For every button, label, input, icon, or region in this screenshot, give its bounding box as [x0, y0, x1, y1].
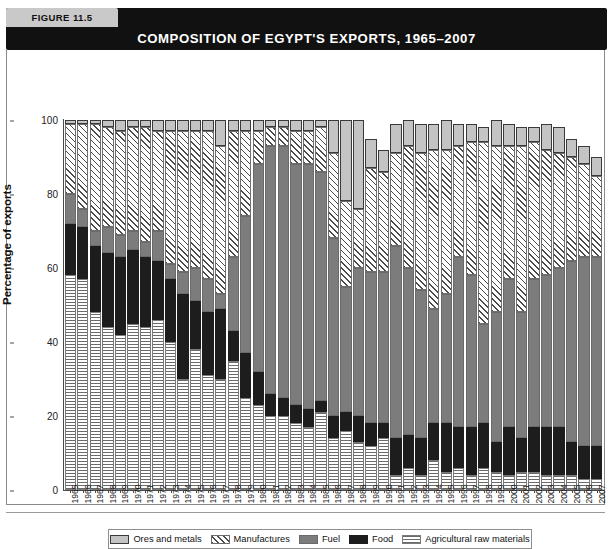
bar-segment-food	[340, 412, 351, 431]
y-axis-tick-label: 100	[14, 115, 64, 126]
legend-item-food[interactable]: Food	[349, 534, 393, 544]
legend-item-fuel[interactable]: Fuel	[299, 534, 340, 544]
bar-segment-fuel	[177, 272, 188, 294]
bar-segment-manufactures	[190, 131, 201, 268]
bar-column[interactable]	[340, 120, 351, 490]
bar-segment-ores	[315, 120, 326, 127]
bar-segment-manufactures	[328, 153, 339, 238]
bar-column[interactable]	[503, 120, 514, 490]
y-axis-tick-label: 80	[14, 189, 64, 200]
bar-column[interactable]	[478, 120, 489, 490]
chart-panel: Percentage of exports 020406080100 19651…	[6, 50, 605, 505]
bar-column[interactable]	[441, 120, 452, 490]
bar-segment-food	[240, 353, 251, 397]
bar-column[interactable]	[190, 120, 201, 490]
bar-column[interactable]	[228, 120, 239, 490]
bar-segment-manufactures	[253, 131, 264, 164]
bar-segment-manufactures	[428, 150, 439, 309]
bar-column[interactable]	[140, 120, 151, 490]
bar-segment-fuel	[152, 231, 163, 261]
bar-segment-food	[578, 446, 589, 479]
bar-segment-fuel	[140, 242, 151, 257]
bar-column[interactable]	[566, 120, 577, 490]
bar-segment-food	[403, 435, 414, 468]
bar-column[interactable]	[177, 120, 188, 490]
bar-column[interactable]	[202, 120, 213, 490]
bar-column[interactable]	[415, 120, 426, 490]
bar-segment-manufactures	[403, 146, 414, 268]
x-axis-tick: 2007	[590, 493, 603, 535]
bar-segment-ores	[390, 124, 401, 154]
bar-column[interactable]	[553, 120, 564, 490]
bar-segment-fuel	[253, 164, 264, 371]
bar-column[interactable]	[390, 120, 401, 490]
bar-segment-ores	[152, 120, 163, 131]
bar-segment-agricultural	[90, 312, 101, 490]
bar-column[interactable]	[65, 120, 76, 490]
bar-column[interactable]	[77, 120, 88, 490]
bar-segment-agricultural	[190, 349, 201, 490]
bar-column[interactable]	[152, 120, 163, 490]
legend-label-manufactures: Manufactures	[234, 534, 290, 544]
bar-segment-food	[90, 246, 101, 313]
legend-item-agricultural[interactable]: Agricultural raw materials	[402, 534, 529, 544]
bar-column[interactable]	[466, 120, 477, 490]
bar-segment-manufactures	[240, 131, 251, 216]
bar-column[interactable]	[578, 120, 589, 490]
bar-segment-food	[503, 427, 514, 475]
bar-column[interactable]	[516, 120, 527, 490]
bar-column[interactable]	[453, 120, 464, 490]
bar-column[interactable]	[591, 120, 602, 490]
bar-column[interactable]	[365, 120, 376, 490]
bar-segment-ores	[415, 124, 426, 154]
bar-segment-agricultural	[253, 405, 264, 490]
bar-column[interactable]	[353, 120, 364, 490]
bar-segment-manufactures	[290, 131, 301, 164]
bar-segment-fuel	[340, 287, 351, 413]
bar-column[interactable]	[541, 120, 552, 490]
bar-segment-food	[190, 301, 201, 349]
bar-segment-manufactures	[415, 153, 426, 290]
bar-column[interactable]	[528, 120, 539, 490]
bar-column[interactable]	[240, 120, 251, 490]
bar-segment-agricultural	[102, 327, 113, 490]
bar-segment-agricultural	[115, 335, 126, 490]
bar-segment-manufactures	[77, 124, 88, 209]
bar-column[interactable]	[115, 120, 126, 490]
legend-label-ores: Ores and metals	[133, 534, 201, 544]
bar-segment-food	[328, 416, 339, 438]
bar-column[interactable]	[215, 120, 226, 490]
bar-segment-ores	[215, 120, 226, 146]
bar-column[interactable]	[378, 120, 389, 490]
bar-column[interactable]	[303, 120, 314, 490]
bar-segment-food	[528, 427, 539, 471]
bar-segment-fuel	[491, 312, 502, 442]
bar-segment-manufactures	[228, 131, 239, 257]
bar-column[interactable]	[328, 120, 339, 490]
bar-segment-ores	[516, 127, 527, 146]
bar-column[interactable]	[265, 120, 276, 490]
y-axis-tick-label: 20	[14, 411, 64, 422]
legend-item-ores[interactable]: Ores and metals	[110, 534, 201, 544]
bar-segment-manufactures	[303, 131, 314, 164]
bar-column[interactable]	[491, 120, 502, 490]
bar-column[interactable]	[290, 120, 301, 490]
bar-segment-fuel	[215, 294, 226, 309]
bar-column[interactable]	[428, 120, 439, 490]
bar-column[interactable]	[278, 120, 289, 490]
bar-segment-food	[553, 427, 564, 475]
bar-segment-fuel	[65, 194, 76, 224]
bar-segment-food	[441, 423, 452, 471]
bar-column[interactable]	[165, 120, 176, 490]
bar-segment-food	[228, 331, 239, 361]
legend-label-fuel: Fuel	[322, 534, 340, 544]
bar-column[interactable]	[403, 120, 414, 490]
bar-column[interactable]	[315, 120, 326, 490]
bar-segment-food	[378, 423, 389, 438]
bar-column[interactable]	[90, 120, 101, 490]
legend-item-manufactures[interactable]: Manufactures	[211, 534, 290, 544]
bar-column[interactable]	[127, 120, 138, 490]
bar-column[interactable]	[102, 120, 113, 490]
bar-column[interactable]	[253, 120, 264, 490]
bar-segment-food	[253, 372, 264, 405]
